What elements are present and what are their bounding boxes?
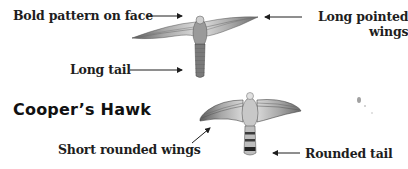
smudge-mark — [357, 97, 373, 114]
coopers-hawk-illustration — [200, 93, 301, 156]
arrow-short-wings — [192, 128, 210, 143]
falcon-illustration — [132, 16, 258, 78]
